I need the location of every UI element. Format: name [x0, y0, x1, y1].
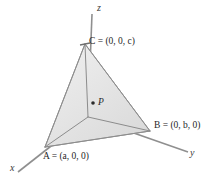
vertex-label-b: B = (0, b, 0): [154, 121, 201, 131]
vertex-label-c: C = (0, 0, c): [89, 37, 135, 47]
tetrahedron-solid: [45, 44, 150, 147]
y-axis-label: y: [190, 148, 194, 158]
face-a-b-c: [45, 44, 150, 147]
vertex-label-a: A = (a, 0, 0): [43, 152, 89, 162]
diagram-canvas: [0, 0, 206, 181]
point-p-marker: [91, 101, 95, 105]
point-label-p: P: [98, 98, 104, 108]
x-axis-label: x: [10, 163, 14, 173]
z-axis-label: z: [97, 3, 101, 13]
tetrahedron-figure: z y x C = (0, 0, c) B = (0, b, 0) A = (a…: [0, 0, 206, 181]
